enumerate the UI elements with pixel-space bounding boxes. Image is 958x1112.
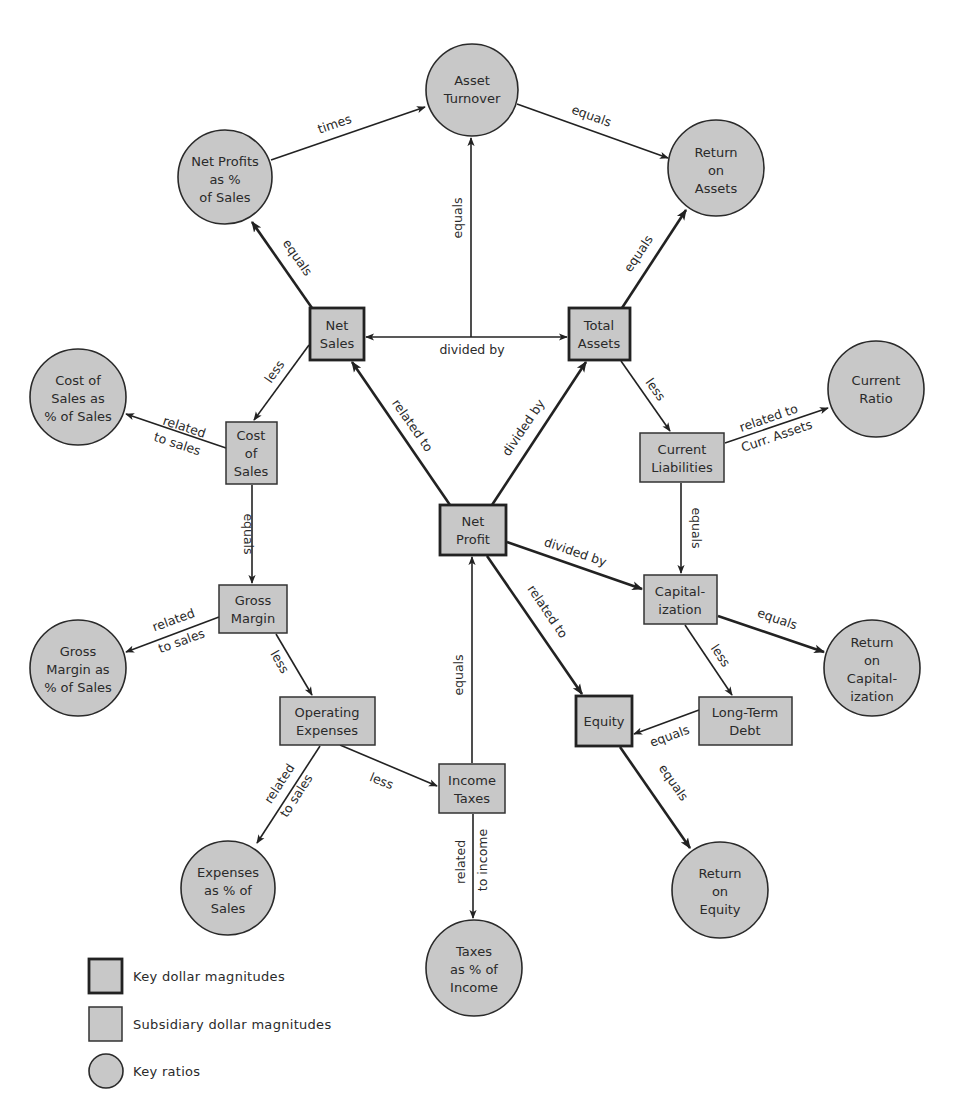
sub-node-current-liabilities: CurrentLiabilities [640, 433, 724, 482]
sub-node-gross-margin: GrossMargin [219, 585, 287, 633]
ratio-node-gross-margin-pct: GrossMargin as% of Sales [30, 620, 126, 716]
label-equals: equals [689, 507, 704, 548]
label-equals: equals [621, 232, 656, 275]
sub-node-cost-of-sales: CostofSales [226, 422, 277, 484]
label-less: less [267, 648, 292, 676]
label-less: less [368, 769, 396, 792]
edge-net-sales-cost-of-sales [254, 345, 309, 420]
legend-subsidiary-dollar-swatch [89, 1007, 122, 1041]
legend-subsidiary-dollar-label: Subsidiary dollar magnitudes [133, 1017, 332, 1032]
ratio-node-current-ratio: CurrentRatio [828, 341, 924, 437]
label-to-income: to income [475, 829, 490, 892]
key-node-total-assets: TotalAssets [569, 308, 630, 360]
label-related-to: related to [525, 582, 571, 641]
label-equals: equals [656, 761, 692, 803]
financial-ratio-diagram: times equals equals equals equals divide… [0, 0, 958, 1112]
legend-key-dollar-swatch [89, 959, 122, 993]
legend-key-ratios-label: Key ratios [133, 1064, 200, 1079]
edge-net-profit-equity [487, 556, 582, 694]
label-divided-by: divided by [439, 342, 505, 357]
label-less: less [261, 357, 287, 385]
ratio-node-return-on-capitalization: ReturnonCapital-ization [824, 620, 920, 716]
key-node-net-profit: NetProfit [440, 505, 506, 555]
sub-node-long-term-debt: Long-TermDebt [699, 697, 792, 745]
ratio-node-taxes-pct-income: Taxesas % ofIncome [426, 920, 522, 1016]
legend-key-ratios-swatch [89, 1054, 123, 1088]
label-equals: equals [241, 513, 256, 554]
ratio-node-return-on-assets: ReturnonAssets [668, 120, 764, 216]
ratio-node-cost-of-sales-pct: Cost ofSales as% of Sales [30, 349, 126, 445]
ratio-node-asset-turnover: AssetTurnover [426, 44, 518, 136]
label-equals: equals [450, 197, 465, 238]
label-less: less [643, 375, 669, 403]
sub-node-income-taxes: IncomeTaxes [439, 764, 505, 813]
ratio-node-return-on-equity: ReturnonEquity [672, 842, 768, 938]
ratio-node-expenses-pct-sales: Expensesas % ofSales [181, 841, 275, 935]
legend-key-dollar-label: Key dollar magnitudes [133, 969, 285, 984]
legend-key-dollar: Key dollar magnitudes [89, 959, 285, 993]
label-equals: equals [280, 236, 316, 278]
legend: Key dollar magnitudes Subsidiary dollar … [89, 959, 332, 1088]
key-node-equity: Equity [576, 696, 632, 746]
legend-subsidiary-dollar: Subsidiary dollar magnitudes [89, 1007, 332, 1041]
label-related: related [453, 840, 468, 884]
label-divided-by: divided by [542, 534, 609, 570]
key-node-net-sales: NetSales [310, 308, 364, 360]
sub-node-operating-expenses: OperatingExpenses [280, 697, 375, 745]
label-times: times [316, 111, 354, 137]
label-divided-by: divided by [499, 396, 548, 459]
edge-net-profit-total-assets [492, 362, 586, 505]
svg-text:Equity: Equity [583, 714, 624, 729]
ratio-node-net-profits-pct-sales: Net Profitsas %of Sales [178, 130, 272, 224]
label-equals: equals [451, 654, 466, 695]
sub-node-capitalization: Capital-ization [644, 575, 717, 624]
legend-key-ratios: Key ratios [89, 1054, 200, 1088]
label-equals: equals [756, 605, 800, 633]
edge-net-profit-net-sales [352, 362, 450, 505]
svg-text:Taxesas % ofIncome: Taxesas % ofIncome [450, 944, 498, 995]
